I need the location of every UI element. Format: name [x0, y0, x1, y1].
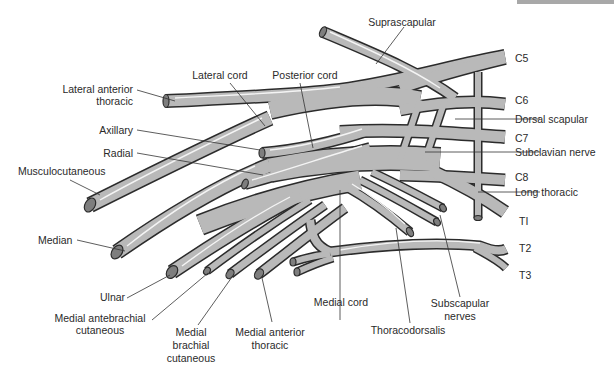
label-root-c6: C6: [515, 94, 529, 106]
label-medial-antebrachial-1: Medial antebrachial: [54, 312, 145, 324]
label-dorsal-scapular: Dorsal scapular: [515, 113, 588, 125]
label-ulnar: Ulnar: [100, 291, 126, 303]
label-medial-anterior-thoracic-2: thoracic: [252, 339, 289, 351]
label-medial-antebrachial-2: cutaneous: [76, 324, 124, 336]
label-lateral-anterior-thoracic-2: thoracic: [96, 95, 133, 107]
brachial-plexus-diagram: Suprascapular Lateral cord Posterior cor…: [0, 0, 614, 374]
label-root-c7: C7: [515, 132, 529, 144]
label-radial: Radial: [103, 147, 133, 159]
label-axillary: Axillary: [99, 124, 134, 136]
label-long-thoracic: Long thoracic: [515, 186, 578, 198]
label-lateral-anterior-thoracic-1: Lateral anterior: [62, 83, 133, 95]
label-medial-brachial-2: brachial: [173, 339, 210, 351]
label-medial-brachial-3: cutaneous: [167, 352, 215, 364]
label-subscapular-1: Subscapular: [431, 297, 490, 309]
label-musculocutaneous: Musculocutaneous: [18, 165, 106, 177]
label-posterior-cord: Posterior cord: [272, 69, 338, 81]
label-root-t1: TI: [519, 215, 528, 227]
label-root-c5: C5: [515, 52, 529, 64]
label-root-t3: T3: [519, 269, 531, 281]
label-median: Median: [38, 234, 73, 246]
label-root-c8: C8: [515, 171, 529, 183]
label-lateral-cord: Lateral cord: [192, 69, 248, 81]
label-subscapular-2: nerves: [444, 310, 476, 322]
label-medial-brachial-1: Medial: [176, 326, 207, 338]
label-subclavian-nerve: Subclavian nerve: [515, 146, 596, 158]
label-medial-anterior-thoracic-1: Medial anterior: [235, 326, 305, 338]
label-suprascapular: Suprascapular: [368, 16, 436, 28]
label-medial-cord: Medial cord: [314, 296, 368, 308]
label-root-t2: T2: [519, 242, 531, 254]
label-thoracodorsalis: Thoracodorsalis: [371, 324, 446, 336]
